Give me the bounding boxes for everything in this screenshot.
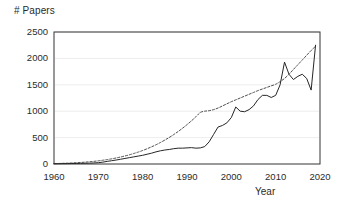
y-tick-label: 500 [8,133,48,143]
y-tick-label: 2500 [8,27,48,37]
data-line-series [54,45,316,164]
x-tick-label: 2020 [298,172,339,182]
x-tick-label: 1960 [32,172,76,182]
x-axis-title: Year [255,186,275,197]
x-tick-label: 1970 [76,172,120,182]
chart-figure: # Papers Year 05001000150020002500 19601… [0,0,339,205]
grid-lines [55,32,319,138]
y-tick-label: 1500 [8,80,48,90]
x-tick-label: 1980 [121,172,165,182]
x-tick-label: 2000 [209,172,253,182]
y-axis-title: # Papers [14,5,55,16]
y-tick-label: 2000 [8,53,48,63]
x-tick-label: 2010 [254,172,298,182]
x-tick-label: 1990 [165,172,209,182]
plot-frame [54,32,320,164]
y-tick-label: 1000 [8,106,48,116]
trend-line-series [54,46,316,163]
y-tick-label: 0 [8,159,48,169]
